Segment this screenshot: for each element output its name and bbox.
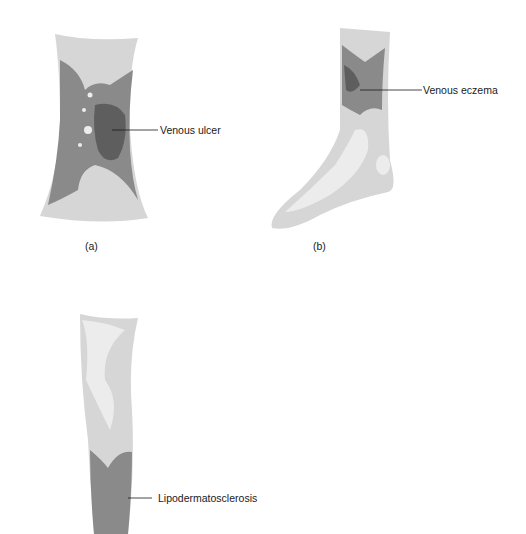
panel-b-venous-eczema: Venous eczema (b) (260, 0, 526, 260)
label-venous-ulcer: Venous ulcer (160, 124, 221, 136)
label-lipodermatosclerosis: Lipodermatosclerosis (158, 492, 257, 504)
panel-a-venous-ulcer: Venous ulcer (a) (0, 0, 260, 260)
label-venous-eczema: Venous eczema (423, 84, 498, 96)
leg-illustration-ulcer (0, 0, 260, 260)
caption-a: (a) (85, 240, 98, 252)
caption-b: (b) (313, 240, 326, 252)
panel-c-lipodermatosclerosis: Lipodermatosclerosis (60, 300, 360, 534)
foot-illustration-eczema (260, 0, 526, 260)
